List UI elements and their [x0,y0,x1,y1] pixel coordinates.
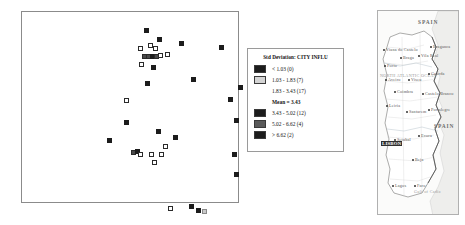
scatter-point [238,85,243,90]
legend-title: Std Deviation: CITY INFLU [251,54,340,60]
map-city-dot [406,111,408,113]
map-city-label: Portalegre [431,107,450,112]
scatter-point [165,52,170,57]
scatter-point [173,135,178,140]
scatter-point [151,65,156,70]
map-city-label: Castelo Branco [425,91,454,96]
map-city-label: Leiria [389,103,400,108]
map-city-dot [418,55,420,57]
map-city-dot [428,73,430,75]
scatter-point [179,41,184,46]
map-city-label: Setubal [397,137,411,142]
map-city-dot [394,91,396,93]
scatter-point [163,144,168,149]
scatter-point [158,53,163,58]
map-city-label: Braganca [433,44,450,49]
map-city-dot [430,46,432,48]
map-city-dot [394,139,396,141]
legend-row[interactable]: 3.43 - 5.02 (12) [251,107,340,118]
scatter-plot-area [22,12,238,202]
scatter-point [156,129,161,134]
map-city-dot [384,65,386,67]
scatter-point [138,152,143,157]
legend-rows: < 1.03 (0)1.03 - 1.83 (7)1.83 - 3.43 (17… [251,63,340,140]
map-city-dot [400,57,402,59]
legend-row-label: 1.03 - 1.83 (7) [272,77,303,83]
scatter-point [149,152,154,157]
scatter-plot-panel [21,11,239,203]
legend-swatch [254,65,266,73]
legend-row-label: 5.02 - 6.62 (4) [272,121,303,127]
legend-row[interactable]: 1.83 - 3.43 (17) [251,85,340,96]
map-city-dot [418,135,420,137]
scatter-point [234,118,239,123]
map-label-gulf: Gulf of Cadiz [414,189,441,194]
scatter-point [159,152,164,157]
scatter-point [145,81,150,86]
scatter-point [139,62,144,67]
scatter-point [138,46,143,51]
map-label-spain-east: SPAIN [434,123,454,129]
legend-swatch [254,87,266,95]
legend-row[interactable]: > 6.62 (2) [251,129,340,140]
map-city-dot [385,79,387,81]
scatter-point [168,206,173,211]
reference-map: SPAIN SPAIN NORTH ATLANTIC OCEAN LISBON … [377,10,459,215]
map-city-label: Guarda [431,71,445,76]
map-city-label: Viseu [411,77,422,82]
map-label-spain-north: SPAIN [418,19,438,25]
legend-swatch [254,76,266,84]
legend-row-label: 3.43 - 5.02 (12) [272,110,306,116]
map-city-label: Porto [387,63,397,68]
legend-swatch [254,131,266,139]
scatter-point [124,120,129,125]
map-city-label: Braga [403,55,414,60]
scatter-point [152,160,157,165]
map-city-dot [412,159,414,161]
scatter-point [196,208,201,213]
map-city-dot [428,109,430,111]
legend-row[interactable]: 5.02 - 6.62 (4) [251,118,340,129]
legend-swatch [254,109,266,117]
legend-row[interactable]: < 1.03 (0) [251,63,340,74]
map-city-label: Vila Real [421,53,438,58]
map-city-label: Viana do Castelo [386,47,418,52]
legend-mean-label: Mean = 3.43 [272,99,300,105]
scatter-point [234,172,239,177]
scatter-point [107,138,112,143]
scatter-point [157,37,162,42]
map-city-label: Faro [417,183,425,188]
scatter-point [232,152,237,157]
scatter-point [189,204,194,209]
map-city-label: Lagos [395,183,406,188]
scatter-point [228,97,233,102]
legend-panel: Std Deviation: CITY INFLU < 1.03 (0)1.03… [247,48,344,152]
map-city-dot [422,93,424,95]
legend-row-label: < 1.03 (0) [272,66,293,72]
map-city-label: Aveiro [388,77,401,82]
scatter-point [191,77,196,82]
legend-row[interactable]: 1.03 - 1.83 (7) [251,74,340,85]
map-city-label: Santarem [409,109,426,114]
legend-swatch [254,120,266,128]
map-city-label: Evora [421,133,432,138]
scatter-point [124,98,129,103]
legend-row-label: 1.83 - 3.43 (17) [272,88,306,94]
scatter-point [202,209,207,214]
map-city-dot [386,105,388,107]
map-city-dot [392,185,394,187]
map-city-dot [408,79,410,81]
scatter-point [144,28,149,33]
scatter-point [219,45,224,50]
map-city-label: Beja [415,157,423,162]
map-city-dot [414,185,416,187]
map-city-label: Coimbra [397,89,413,94]
scatter-point [153,46,158,51]
legend-row-label: > 6.62 (2) [272,132,293,138]
map-city-dot [383,49,385,51]
legend-mean-row: Mean = 3.43 [251,96,340,107]
